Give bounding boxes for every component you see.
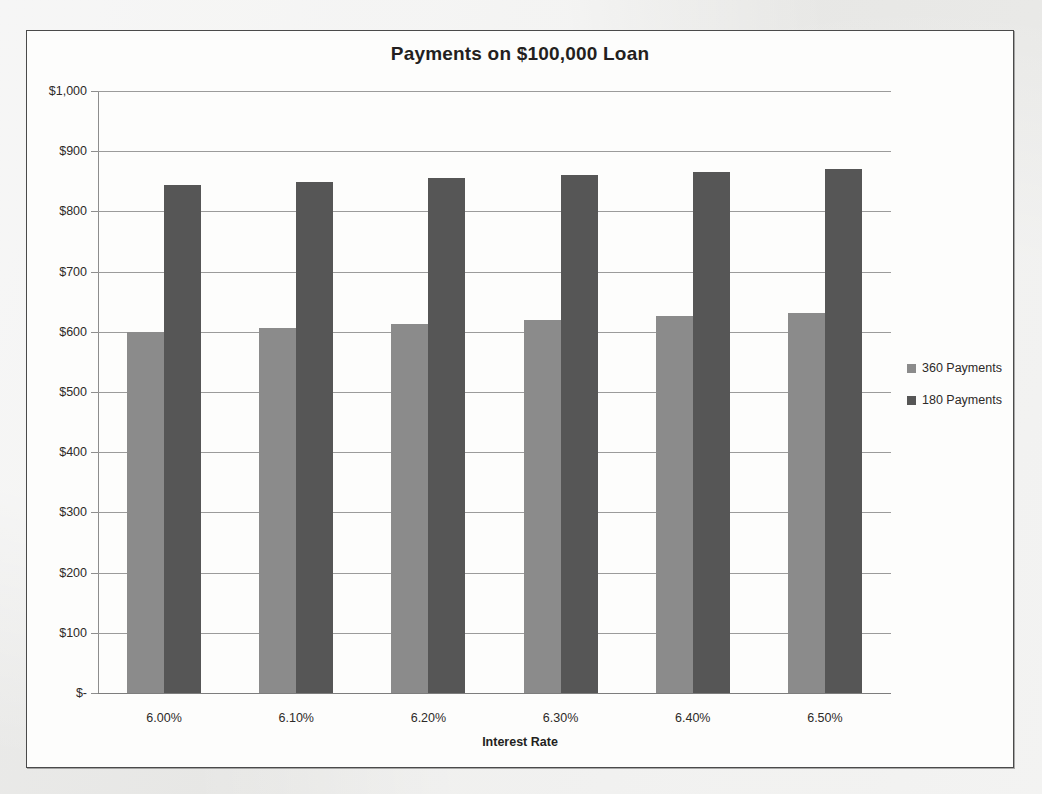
legend-item: 180 Payments <box>907 393 1002 407</box>
gridline <box>98 392 891 393</box>
x-axis-label: 6.20% <box>411 711 446 725</box>
gridline <box>98 452 891 453</box>
y-axis-label: $600 <box>59 325 87 339</box>
bar-180-payments-6.30% <box>561 175 598 693</box>
chart-frame: Payments on $100,000 Loan $-$100$200$300… <box>26 30 1014 768</box>
x-axis-label: 6.10% <box>279 711 314 725</box>
bar-180-payments-6.40% <box>693 172 730 693</box>
y-axis-tick <box>91 211 98 212</box>
y-axis-tick <box>91 512 98 513</box>
y-axis-label: $200 <box>59 566 87 580</box>
gridline <box>98 332 891 333</box>
legend-label: 360 Payments <box>922 361 1002 375</box>
y-axis-tick <box>91 272 98 273</box>
legend-label: 180 Payments <box>922 393 1002 407</box>
y-axis-tick <box>91 573 98 574</box>
y-axis-label: $- <box>76 686 87 700</box>
bar-360-payments-6.10% <box>259 328 296 693</box>
x-axis-label: 6.00% <box>146 711 181 725</box>
y-axis-tick <box>91 392 98 393</box>
gridline <box>98 512 891 513</box>
x-axis-label: 6.50% <box>807 711 842 725</box>
gridline <box>98 211 891 212</box>
bar-180-payments-6.50% <box>825 169 862 693</box>
y-axis-label: $900 <box>59 144 87 158</box>
chart-legend: 360 Payments180 Payments <box>907 361 1002 425</box>
bar-360-payments-6.50% <box>788 313 825 693</box>
x-axis-label: 6.30% <box>543 711 578 725</box>
bar-180-payments-6.20% <box>428 178 465 693</box>
y-axis-tick <box>91 633 98 634</box>
gridline <box>98 272 891 273</box>
bar-360-payments-6.40% <box>656 316 693 693</box>
y-axis-tick <box>91 332 98 333</box>
y-axis-label: $1,000 <box>49 84 87 98</box>
gridline <box>98 573 891 574</box>
legend-swatch-icon <box>907 364 916 373</box>
bar-360-payments-6.20% <box>391 324 428 693</box>
gridline <box>98 633 891 634</box>
y-axis-label: $800 <box>59 204 87 218</box>
legend-swatch-icon <box>907 396 916 405</box>
bar-360-payments-6.30% <box>524 320 561 693</box>
y-axis-label: $700 <box>59 265 87 279</box>
bar-180-payments-6.00% <box>164 185 201 693</box>
y-axis-label: $400 <box>59 445 87 459</box>
y-axis-label: $100 <box>59 626 87 640</box>
y-axis-label: $500 <box>59 385 87 399</box>
plot-area: $-$100$200$300$400$500$600$700$800$900$1… <box>98 91 891 693</box>
x-axis-label: 6.40% <box>675 711 710 725</box>
gridline <box>98 151 891 152</box>
gridline <box>98 91 891 92</box>
y-axis-tick <box>91 693 98 694</box>
legend-item: 360 Payments <box>907 361 1002 375</box>
y-axis-tick <box>91 91 98 92</box>
bar-360-payments-6.00% <box>127 332 164 693</box>
bar-180-payments-6.10% <box>296 182 333 693</box>
x-axis-title: Interest Rate <box>27 735 1013 749</box>
y-axis-tick <box>91 452 98 453</box>
y-axis-tick <box>91 151 98 152</box>
y-axis-label: $300 <box>59 505 87 519</box>
gridline <box>98 693 891 694</box>
chart-title: Payments on $100,000 Loan <box>27 43 1013 65</box>
